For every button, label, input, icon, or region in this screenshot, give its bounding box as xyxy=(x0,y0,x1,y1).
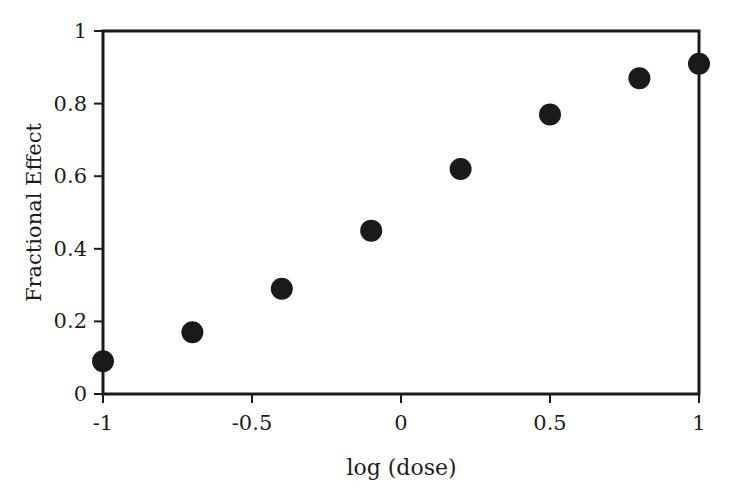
data-point-marker xyxy=(360,220,382,242)
x-tick-label: -1 xyxy=(93,413,113,434)
x-tick-label: -0.5 xyxy=(232,413,273,434)
dose-response-chart: 00.20.40.60.81 -1-0.500.51 Fractional Ef… xyxy=(0,0,735,499)
data-point-series xyxy=(92,53,710,373)
data-point-marker xyxy=(688,53,710,75)
data-point-marker xyxy=(450,158,472,180)
data-point-marker xyxy=(271,278,293,300)
x-tick-label: 0 xyxy=(394,413,407,434)
data-point-marker xyxy=(628,67,650,89)
data-point-marker xyxy=(539,103,561,125)
x-tick-label: 1 xyxy=(692,413,705,434)
data-point-marker xyxy=(181,321,203,343)
x-tick-label: 0.5 xyxy=(533,413,566,434)
data-point-marker xyxy=(92,350,114,372)
x-axis-title: log (dose) xyxy=(103,455,700,480)
y-axis-title: Fractional Effect xyxy=(22,31,46,394)
